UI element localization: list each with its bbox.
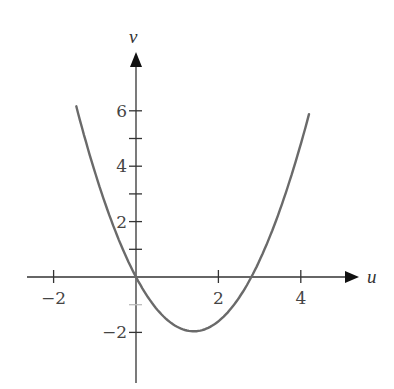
tick-labels: −224−2246 [41, 101, 306, 343]
y-tick-label: −2 [102, 322, 127, 342]
y-axis-label: v [129, 26, 138, 47]
x-axis-label: u [367, 266, 377, 287]
axes [27, 52, 359, 383]
x-tick-label: 2 [213, 288, 224, 308]
parabola-curve [76, 106, 309, 331]
y-tick-label: 6 [116, 101, 127, 121]
x-tick-label: −2 [41, 288, 66, 308]
parabola-chart: −224−2246 u v [0, 0, 394, 389]
x-axis-arrow-icon [345, 271, 359, 283]
y-tick-label: 4 [116, 156, 127, 176]
y-tick-label: 2 [116, 212, 127, 232]
x-tick-label: 4 [295, 288, 306, 308]
y-axis-arrow-icon [130, 52, 142, 67]
